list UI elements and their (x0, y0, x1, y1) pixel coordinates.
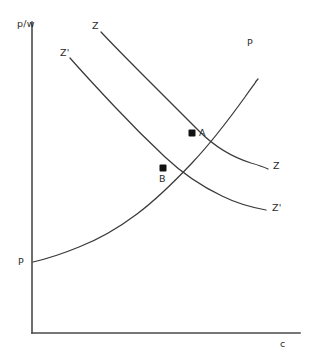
x-axis-label: c (280, 339, 285, 349)
point-marker-a (189, 130, 196, 137)
curve-label-z-prime-top: Z' (60, 48, 70, 58)
curve-label-p-top: P (247, 38, 253, 48)
curve-label-z-right: Z (273, 161, 280, 171)
curve-label-z-top: Z (92, 21, 99, 31)
point-label-b: B (159, 174, 166, 184)
y-axis-label: p/w (17, 19, 35, 29)
figure-container: p/w c Z Z' P Z Z' P A B (0, 0, 311, 357)
curve-label-z-prime-right: Z' (272, 203, 282, 213)
point-label-a: A (199, 128, 206, 138)
point-marker-b (160, 165, 167, 172)
curve-label-p-left: P (18, 257, 24, 267)
plot-canvas (0, 0, 311, 357)
curve-p (33, 79, 258, 262)
